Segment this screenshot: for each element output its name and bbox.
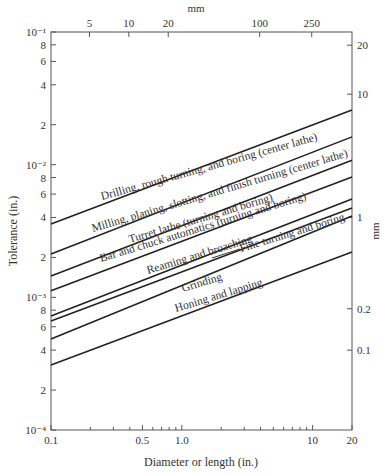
line-labels: Drilling, rough turning, and boring (cen… [90, 130, 349, 314]
top-tick-label: 10 [123, 17, 135, 29]
top-tick-label: 250 [303, 17, 320, 29]
tolerance-vs-diameter-chart: 0.10.51.01020 10⁻¹864210⁻²864210⁻³864210… [0, 0, 392, 474]
x-tick-label: 1.0 [175, 434, 189, 446]
right-tick-label: 0.2 [357, 303, 371, 315]
right-mm-axis-ticks: 201010.20.1 [347, 39, 371, 356]
y-tick-label: 2 [41, 384, 47, 396]
right-tick-label: 0.1 [357, 344, 371, 356]
top-tick-label: 20 [163, 17, 175, 29]
y-tick-label: 10⁻¹ [26, 26, 46, 38]
x-tick-label: 0.5 [136, 434, 150, 446]
y-tick-label: 4 [41, 211, 47, 223]
right-tick-label: 20 [357, 39, 369, 51]
right-tick-label: 10 [357, 88, 369, 100]
top-axis-label: mm [187, 2, 205, 14]
y-tick-label: 10⁻² [26, 159, 47, 171]
y-tick-label: 6 [41, 321, 47, 333]
y-tick-label: 8 [41, 304, 47, 316]
x-tick-label: 20 [347, 434, 359, 446]
y-tick-label: 10⁻⁴ [25, 424, 46, 436]
top-mm-axis-ticks: 51020100250 [87, 17, 321, 37]
y-tick-label: 8 [41, 172, 47, 184]
y-axis-label: Tolerance (in.) [6, 196, 20, 266]
process-line [51, 252, 352, 365]
y-tick-label: 10⁻³ [26, 291, 47, 303]
y-tick-label: 6 [41, 55, 47, 67]
x-axis-ticks: 0.10.51.01020 [44, 425, 358, 446]
y-tick-label: 4 [41, 344, 47, 356]
y-tick-label: 8 [41, 39, 47, 51]
right-tick-label: 1 [357, 211, 363, 223]
chart-canvas: 0.10.51.01020 10⁻¹864210⁻²864210⁻³864210… [0, 0, 392, 474]
y-tick-label: 4 [41, 79, 47, 91]
top-tick-label: 100 [251, 17, 268, 29]
x-tick-label: 10 [307, 434, 319, 446]
y-tick-label: 6 [41, 188, 47, 200]
y-tick-label: 2 [41, 251, 47, 263]
y-tick-label: 2 [41, 119, 47, 131]
x-tick-label: 0.1 [44, 434, 58, 446]
x-axis-label: Diameter or length (in.) [144, 455, 258, 469]
process-lines [51, 110, 352, 365]
right-axis-label: mm [369, 222, 381, 240]
top-tick-label: 5 [87, 17, 93, 29]
